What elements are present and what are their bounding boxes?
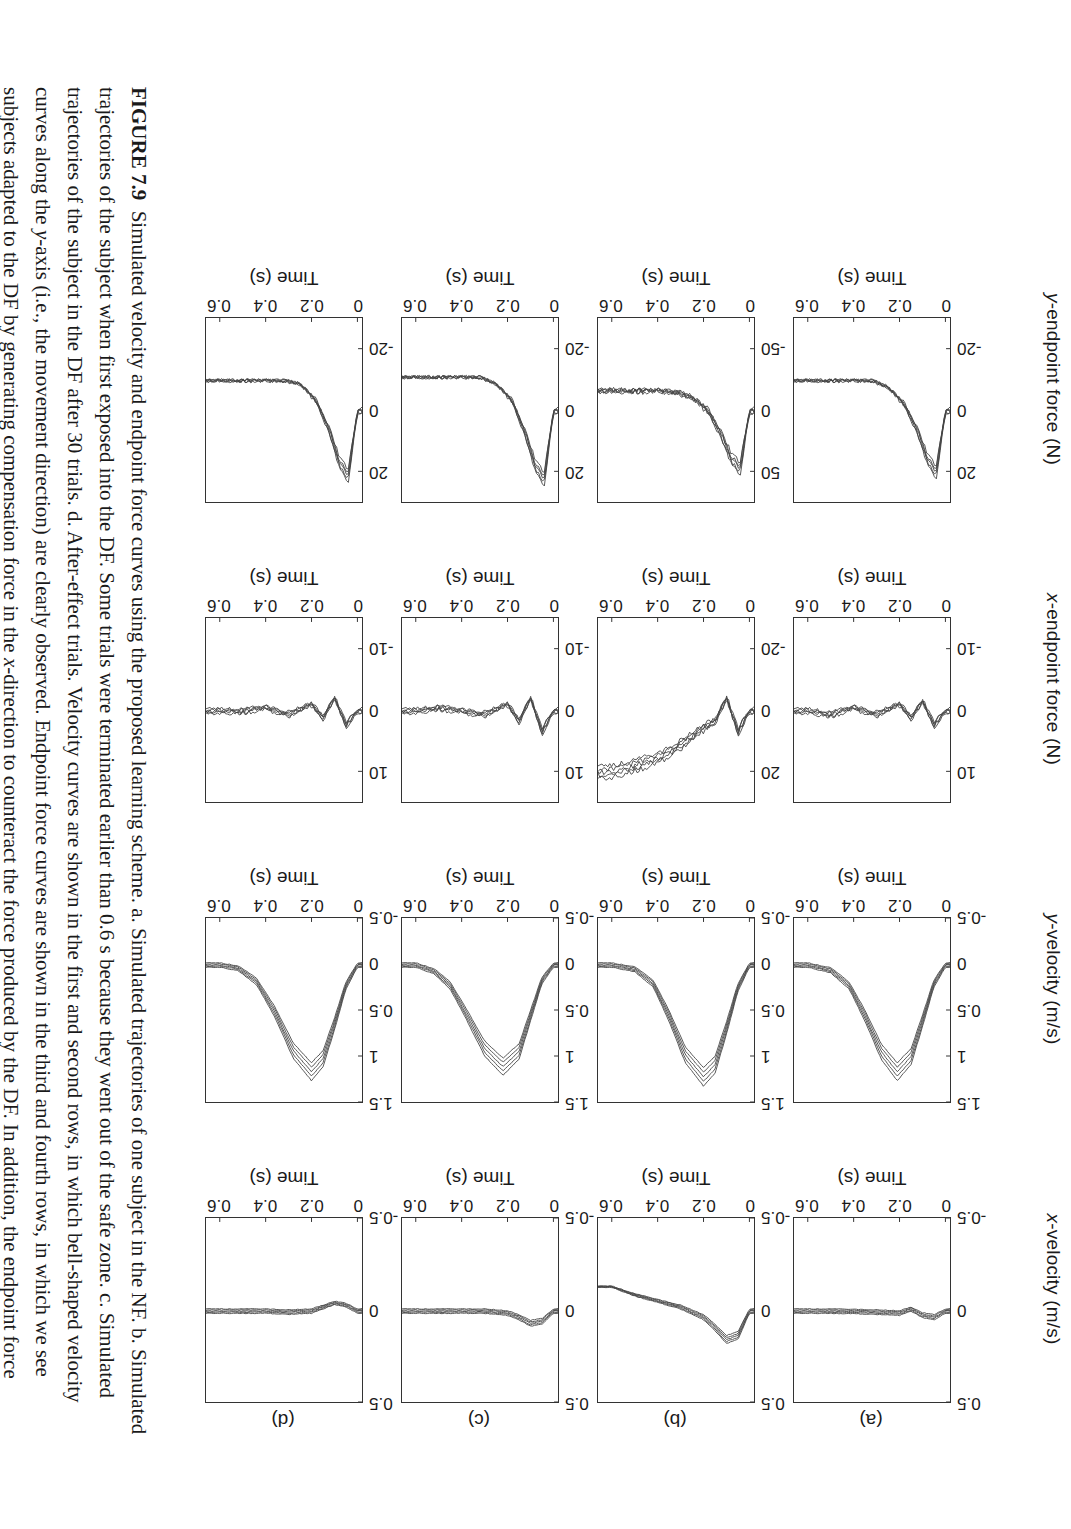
plot-panel-d-row1: (d)0.50-0.500.20.40.6Time (s) [203, 1129, 363, 1429]
x-tick-label: 0.4 [646, 895, 670, 915]
row-axis-title: y-velocity (m/s) [1042, 829, 1064, 1129]
x-tick-labels: 00.20.40.6 [793, 1193, 951, 1215]
plot-row-3: x-endpoint force (N)100-1000.20.40.6Time… [191, 529, 961, 829]
plot-traces [402, 318, 558, 502]
trace-line [402, 375, 558, 486]
x-tick-label: 0.4 [842, 295, 866, 315]
plot-traces [598, 618, 754, 802]
x-tick-label: 0.6 [599, 295, 623, 315]
plot-panel-c-row1: (c)0.50-0.500.20.40.6Time (s) [399, 1129, 559, 1429]
trace-line [794, 379, 950, 469]
y-tick-label: -10 [565, 638, 590, 658]
y-tick-label: 1.5 [957, 1093, 981, 1113]
x-axis-title: Time (s) [205, 1167, 363, 1189]
x-tick-label: 0 [746, 595, 755, 615]
y-tick-label: 0.5 [957, 1393, 981, 1413]
y-tick-label: 1 [761, 1047, 770, 1067]
x-tick-label: 0.4 [646, 595, 670, 615]
plot-axes-box [793, 1217, 951, 1403]
plot-row-4: y-endpoint force (N)200-2000.20.40.6Time… [191, 229, 961, 529]
trace-line [598, 966, 754, 1081]
plot-traces [598, 918, 754, 1102]
y-tick-label: 0 [369, 700, 378, 720]
x-tick-label: 0.2 [496, 895, 520, 915]
x-tick-label: 0.2 [496, 295, 520, 315]
figure-caption: FIGURE 7.9 Simulated velocity and endpoi… [14, 87, 154, 1437]
plot-axes-box [205, 917, 363, 1103]
x-tick-labels: 00.20.40.6 [597, 1193, 755, 1215]
plot-axes-box [793, 317, 951, 503]
plot-row-cells: 200-2000.20.40.6Time (s)500-5000.20.40.6… [191, 229, 951, 529]
trace-line [206, 965, 362, 1072]
x-tick-label: 0.2 [692, 895, 716, 915]
y-tick-label: -0.5 [761, 1207, 790, 1227]
x-tick-label: 0 [746, 895, 755, 915]
x-tick-label: 0.2 [888, 595, 912, 615]
x-tick-label: 0.4 [842, 1195, 866, 1215]
plot-panel-a-row4: 200-2000.20.40.6Time (s) [791, 229, 951, 529]
trace-line [206, 966, 362, 1076]
plot-axes-box [793, 617, 951, 803]
x-tick-label: 0 [550, 1195, 559, 1215]
plot-axes-box [205, 317, 363, 503]
plot-traces [206, 618, 362, 802]
row-axis-title: y-endpoint force (N) [1042, 229, 1064, 529]
y-tick-label: -0.5 [565, 1207, 594, 1227]
x-tick-label: 0.6 [795, 895, 819, 915]
x-tick-label: 0.6 [207, 895, 231, 915]
y-tick-label: 0.5 [369, 1000, 393, 1020]
y-tick-label: 20 [369, 462, 388, 482]
x-tick-labels: 00.20.40.6 [597, 293, 755, 315]
trace-line [206, 379, 362, 483]
y-tick-label: 10 [957, 762, 976, 782]
trace-line [206, 379, 362, 478]
y-tick-labels: 1.510.50-0.5 [367, 917, 403, 1103]
trace-line [598, 1286, 754, 1336]
y-tick-label: -0.5 [957, 1207, 986, 1227]
y-tick-label: -20 [565, 338, 590, 358]
plot-traces [598, 1218, 754, 1402]
x-tick-label: 0.6 [599, 1195, 623, 1215]
plot-axes-box [401, 917, 559, 1103]
trace-line [206, 698, 362, 723]
y-tick-label: 0 [957, 1300, 966, 1320]
x-tick-labels: 00.20.40.6 [793, 293, 951, 315]
y-tick-label: 0 [369, 954, 378, 974]
x-tick-label: 0.4 [254, 595, 278, 615]
x-tick-label: 0.6 [795, 595, 819, 615]
plot-axes-box [597, 1217, 755, 1403]
y-tick-labels: 100-10 [367, 617, 403, 803]
x-tick-label: 0.2 [692, 595, 716, 615]
trace-line [794, 965, 950, 1072]
y-tick-label: 0 [369, 1300, 378, 1320]
x-tick-labels: 00.20.40.6 [401, 293, 559, 315]
plot-axes-box [597, 617, 755, 803]
trace-line [206, 967, 362, 1081]
y-tick-label: -10 [957, 638, 982, 658]
trace-line [402, 966, 558, 1071]
y-tick-label: 0 [565, 954, 574, 974]
x-axis-title: Time (s) [597, 867, 755, 889]
y-tick-label: -0.5 [369, 907, 398, 927]
trace-line [598, 389, 754, 475]
plot-axes-box [205, 617, 363, 803]
y-tick-label: 0 [957, 700, 966, 720]
y-tick-label: 0 [565, 1300, 574, 1320]
trace-line [598, 1287, 754, 1342]
plot-traces [598, 318, 754, 502]
y-tick-label: -0.5 [369, 1207, 398, 1227]
trace-line [206, 379, 362, 472]
x-tick-label: 0.6 [599, 595, 623, 615]
x-tick-labels: 00.20.40.6 [401, 593, 559, 615]
x-tick-labels: 00.20.40.6 [401, 893, 559, 915]
plot-axes-box [401, 317, 559, 503]
trace-line [794, 967, 950, 1080]
y-tick-label: -20 [761, 638, 786, 658]
x-tick-label: 0.2 [888, 295, 912, 315]
trace-line [598, 698, 754, 781]
x-tick-label: 0.2 [692, 295, 716, 315]
plot-axes-box [597, 917, 755, 1103]
plot-traces [206, 918, 362, 1102]
y-tick-labels: 1.510.50-0.5 [759, 917, 795, 1103]
panel-label-b: (b) [595, 1409, 755, 1431]
